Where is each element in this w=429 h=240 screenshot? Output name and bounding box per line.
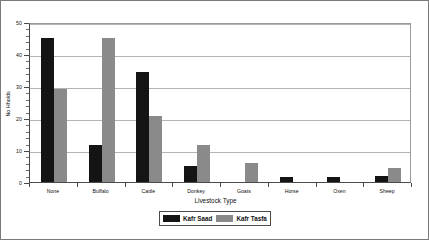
y-axis-tick-label: 0 — [19, 180, 22, 186]
chart-legend: Kafr SaadKafr Tasfa — [159, 211, 271, 226]
x-axis-tick — [220, 183, 221, 187]
x-axis-tick — [77, 183, 78, 187]
plot-area — [29, 23, 411, 183]
x-axis-tick-label: None — [47, 188, 59, 194]
y-axis: No Hholds 01020304050 — [1, 23, 29, 184]
bar — [41, 38, 54, 182]
x-axis-tick — [29, 183, 30, 187]
x-axis-tick — [411, 183, 412, 187]
black-swatch — [163, 215, 180, 222]
x-axis-tick — [363, 183, 364, 187]
x-axis-tick — [268, 183, 269, 187]
legend-item: Kafr Tasfa — [216, 215, 266, 222]
bar-group — [364, 24, 412, 182]
bar — [184, 166, 197, 182]
bars-layer — [30, 24, 410, 182]
x-axis-tick-label: Oxen — [333, 188, 345, 194]
y-axis-tick-label: 20 — [16, 116, 22, 122]
x-axis-tick-label: Sheep — [380, 188, 395, 194]
bar — [245, 163, 258, 182]
x-axis-tick-label: Goats — [237, 188, 251, 194]
bar — [54, 89, 67, 182]
bar — [375, 176, 388, 182]
x-axis-tick — [172, 183, 173, 187]
legend-label: Kafr Saad — [183, 215, 212, 222]
bar-group — [221, 24, 269, 182]
x-axis-tick-label: Cattle — [142, 188, 156, 194]
bar — [102, 38, 115, 182]
x-axis-tick — [125, 183, 126, 187]
y-axis-tick-label: 10 — [16, 148, 22, 154]
legend-item: Kafr Saad — [163, 215, 212, 222]
bar-group — [78, 24, 126, 182]
gray-swatch — [216, 215, 233, 222]
bar-group — [30, 24, 78, 182]
y-axis-tick-label: 30 — [16, 84, 22, 90]
chart-figure: No Hholds 01020304050 NoneBuffaloCattleD… — [0, 0, 429, 240]
bar — [89, 145, 102, 182]
bar — [197, 145, 210, 182]
bar-group — [269, 24, 317, 182]
x-axis-tick-label: Horse — [285, 188, 299, 194]
y-axis-tick-label: 50 — [16, 20, 22, 26]
bar — [327, 177, 340, 182]
bar-group — [317, 24, 365, 182]
bar — [280, 177, 293, 182]
bar — [136, 72, 149, 182]
y-axis-tick-label: 40 — [16, 52, 22, 58]
bar — [149, 116, 162, 182]
x-axis-tick — [316, 183, 317, 187]
x-axis-title: Livestock Type — [1, 197, 429, 204]
bar — [388, 168, 401, 182]
bar-group — [173, 24, 221, 182]
legend-label: Kafr Tasfa — [236, 215, 266, 222]
y-axis-title: No Hholds — [5, 76, 11, 132]
x-axis-tick-label: Donkey — [187, 188, 205, 194]
x-axis-tick-label: Buffalo — [93, 188, 109, 194]
bar-group — [126, 24, 174, 182]
